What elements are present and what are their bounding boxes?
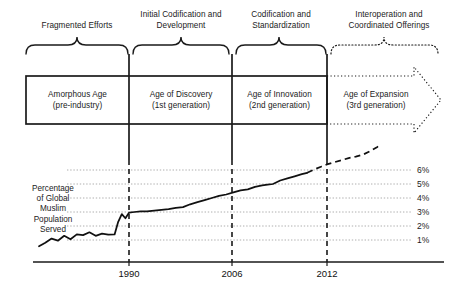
y-axis-label-line: Percentage: [10, 184, 96, 194]
era-name: Age of Discovery: [130, 89, 232, 100]
series-line-projected: [307, 144, 381, 173]
era-label-amorphous: Amorphous Age (pre-industry): [27, 89, 128, 111]
era-name: Age of Expansion: [330, 89, 422, 100]
era-name: Amorphous Age: [27, 89, 128, 100]
y-tick-label-1: 1%: [417, 235, 429, 245]
era-name: Age of Innovation: [232, 89, 327, 100]
phase-heading-line1: Interoperation and: [321, 9, 456, 20]
era-label-expansion: Age of Expansion (3rd generation): [330, 89, 422, 111]
y-axis-label-line: of Global: [10, 194, 96, 204]
phase-brace-initial-codification: [133, 37, 229, 54]
y-axis-label-line: Population: [10, 215, 96, 225]
era-generation: (pre-industry): [27, 100, 128, 111]
chart-gridlines: [67, 170, 412, 240]
y-axis-label: Percentage of Global Muslim Population S…: [10, 184, 96, 235]
y-tick-label-3: 3%: [417, 207, 429, 217]
x-tick-label-2012: 2012: [304, 268, 350, 279]
x-tick-label-1990: 1990: [106, 268, 152, 279]
y-tick-label-5: 5%: [417, 179, 429, 189]
y-tick-label-2: 2%: [417, 221, 429, 231]
x-tick-label-2006: 2006: [209, 268, 255, 279]
phase-brace-fragmented: [26, 37, 128, 54]
y-tick-label-6: 6%: [417, 165, 429, 175]
y-axis-label-line: Muslim: [10, 204, 96, 214]
figure-root: Fragmented Efforts Initial Codification …: [0, 0, 456, 295]
chart-x-axis: [33, 262, 444, 266]
era-generation: (1st generation): [130, 100, 232, 111]
y-tick-label-4: 4%: [417, 193, 429, 203]
era-generation: (2nd generation): [232, 100, 327, 111]
phase-brace-codification-standardization: [236, 37, 326, 54]
phase-brace-interoperation: [331, 37, 438, 54]
phase-heading-line2: Coordinated Offerings: [321, 20, 456, 31]
y-axis-label-line: Served: [10, 225, 96, 235]
phase-heading-interoperation: Interoperation and Coordinated Offerings: [321, 9, 456, 31]
era-label-discovery: Age of Discovery (1st generation): [130, 89, 232, 111]
era-label-innovation: Age of Innovation (2nd generation): [232, 89, 327, 111]
era-generation: (3rd generation): [330, 100, 422, 111]
figure-vector-layer: [0, 0, 456, 295]
